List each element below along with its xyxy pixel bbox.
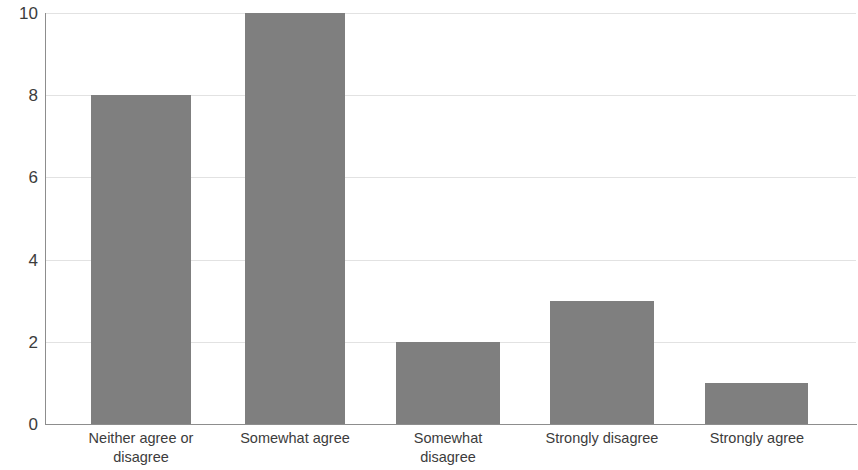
x-tick-label-somewhat-agree: Somewhat agree (217, 429, 373, 448)
bar-somewhat-disagree (396, 342, 500, 424)
x-tick-label-line: Somewhat agree (217, 429, 373, 448)
y-tick-label-6: 6 (4, 169, 38, 186)
bars-layer (45, 13, 856, 424)
x-tick-label-line: Neither agree or (61, 429, 221, 448)
y-tick-label-4: 4 (4, 252, 38, 269)
x-tick-label-neither-agree-or-disagree: Neither agree or disagree (61, 429, 221, 467)
y-tick-label-10: 10 (4, 5, 38, 22)
y-axis-line (45, 13, 46, 425)
y-axis-tick-labels: 10 8 6 4 2 0 (0, 0, 38, 470)
y-tick-label-2: 2 (4, 334, 38, 351)
bar-somewhat-agree (245, 13, 345, 424)
x-axis-tick-labels: Neither agree or disagree Somewhat agree… (45, 429, 856, 470)
y-tick-label-8: 8 (4, 87, 38, 104)
x-tick-label-line: disagree (61, 448, 221, 467)
x-tick-label-somewhat-disagree: Somewhat disagree (372, 429, 524, 467)
bar-chart: 10 8 6 4 2 0 Neither agree or disagree S… (0, 0, 858, 470)
x-tick-label-line: Strongly disagree (526, 429, 678, 448)
y-tick-label-0: 0 (4, 416, 38, 433)
x-tick-label-line: disagree (372, 448, 524, 467)
bar-neither-agree-or-disagree (91, 95, 191, 424)
x-axis-line (45, 424, 857, 425)
x-tick-label-line: Somewhat (372, 429, 524, 448)
bar-strongly-disagree (550, 301, 654, 424)
x-tick-label-strongly-disagree: Strongly disagree (526, 429, 678, 448)
x-tick-label-strongly-agree: Strongly agree (681, 429, 833, 448)
bar-strongly-agree (705, 383, 808, 424)
x-tick-label-line: Strongly agree (681, 429, 833, 448)
